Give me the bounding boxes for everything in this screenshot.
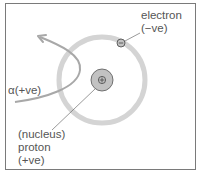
electron-charge-label: (−ve): [141, 22, 168, 34]
nucleus-leader-line: [52, 89, 95, 130]
nucleus-label: (nucleus): [18, 128, 65, 140]
electron-label: electron: [141, 9, 182, 21]
alpha-label: α(+ve): [8, 84, 41, 96]
electron-leader-line: [125, 33, 140, 41]
proton-label: proton: [18, 141, 51, 153]
proton-charge-label: (+ve): [18, 154, 45, 166]
